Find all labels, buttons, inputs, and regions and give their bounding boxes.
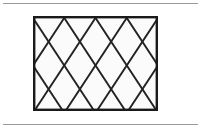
figure-canvas: Crosshatch lattice pattern in rectangula… [0,0,201,128]
lattice-line-dl-1 [0,16,34,128]
lattice-frame-fill [33,16,158,111]
lattice-diagram [0,0,201,128]
lattice-line-dr-8 [157,16,201,128]
